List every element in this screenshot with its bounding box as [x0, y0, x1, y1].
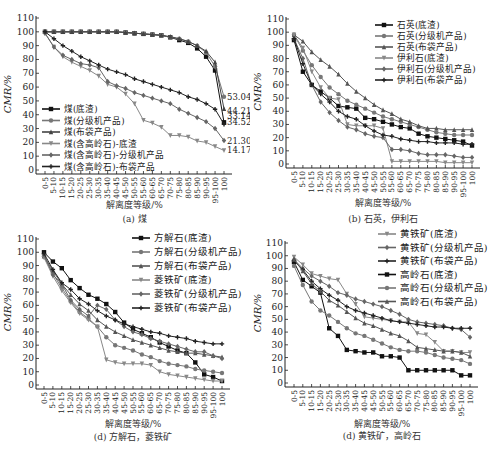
circle-marker-icon — [380, 341, 384, 345]
square-marker-icon — [382, 23, 386, 27]
x-tick-label: 85-90 — [439, 390, 448, 412]
square-marker-icon — [69, 278, 73, 282]
square-marker-icon — [385, 272, 389, 276]
y-tick-label: 40 — [272, 327, 284, 337]
y-tick-label: 50 — [23, 96, 35, 106]
x-tick-label: 40-45 — [111, 392, 120, 414]
x-tick-label: 40-45 — [360, 390, 369, 412]
y-tick-label: 100 — [17, 247, 34, 257]
circle-marker-icon — [318, 308, 322, 312]
x-tick-label: 65-70 — [405, 171, 414, 193]
triangle-marker-icon — [362, 321, 366, 326]
square-marker-icon — [450, 368, 454, 372]
legend-label: 黄铁矿(布袋产品) — [400, 255, 477, 266]
triangle-marker-icon — [363, 95, 367, 100]
x-tick-label: 50-55 — [129, 392, 138, 414]
square-marker-icon — [113, 310, 117, 314]
star-marker-icon — [186, 95, 190, 99]
circle-marker-icon — [327, 85, 331, 89]
square-marker-icon — [372, 117, 376, 121]
x-tick-label: 20-25 — [325, 390, 334, 412]
circle-marker-icon — [390, 117, 394, 121]
star-marker-icon — [425, 139, 429, 143]
chart-caption: (b) 石英，伊利石 — [348, 213, 418, 224]
x-tick-label: 90-95 — [450, 171, 459, 193]
y-tick-label: 60 — [23, 300, 35, 310]
x-axis-label: 解离度等级/% — [106, 199, 163, 210]
square-marker-icon — [399, 125, 403, 129]
star-marker-icon — [49, 164, 53, 168]
legend-item: 伊利石(底渣) — [375, 52, 449, 63]
x-tick-label: 95-100 — [457, 390, 466, 417]
square-marker-icon — [380, 354, 384, 358]
x-tick-label: 45-50 — [121, 177, 130, 199]
y-tick-label: 10 — [273, 146, 285, 156]
star-marker-icon — [150, 82, 154, 86]
x-tick-label: 65-70 — [155, 392, 164, 414]
square-marker-icon — [77, 286, 81, 290]
x-tick-label: 10-15 — [57, 392, 66, 414]
y-tick-label: 20 — [272, 353, 284, 363]
legend-label: 煤(含高岭石)-布袋产品 — [64, 161, 155, 172]
diamond-marker-icon — [389, 308, 393, 313]
circle-marker-icon — [372, 110, 376, 114]
square-marker-icon — [390, 122, 394, 126]
y-tick-label: 30 — [23, 340, 35, 350]
square-marker-icon — [86, 293, 90, 297]
star-marker-icon — [434, 141, 438, 145]
x-tick-label: 40-45 — [361, 171, 370, 193]
circle-marker-icon — [443, 131, 447, 135]
square-marker-icon — [353, 349, 357, 353]
x-tick-label: 85-90 — [441, 171, 450, 193]
triangle-marker-icon — [381, 107, 385, 112]
series-line — [43, 29, 226, 111]
series-line — [43, 30, 226, 99]
legend-label: 煤(分级机产品) — [64, 115, 125, 126]
y-axis-label: CMR/% — [2, 293, 13, 331]
legend-label: 方解石(分级机产品) — [154, 246, 241, 257]
chart-calcite-siderite: 01020304050607080901001100-55-1010-1515-… — [0, 228, 250, 457]
y-tick-label: 60 — [273, 80, 285, 90]
x-tick-label: 5-10 — [298, 171, 307, 188]
star-marker-icon — [184, 336, 188, 340]
y-tick-label: 80 — [23, 54, 35, 64]
x-tick-label: 80-85 — [432, 171, 441, 193]
x-tick-label: 70-75 — [166, 177, 175, 199]
circle-marker-icon — [441, 355, 445, 359]
triangle-marker-icon — [372, 102, 376, 107]
star-marker-icon — [166, 334, 170, 338]
legend-item: 石英(底渣) — [375, 19, 440, 30]
x-tick-label: 95-100 — [209, 392, 218, 419]
x-tick-label: 25-30 — [85, 177, 94, 199]
x-tick-label: 75-80 — [173, 392, 182, 414]
diamond-marker-icon — [168, 101, 172, 106]
legend-label: 煤(布袋产品) — [64, 126, 116, 137]
legend-item: 煤(布袋产品) — [42, 126, 116, 137]
x-tick-label: 60-65 — [146, 392, 155, 414]
square-marker-icon — [49, 107, 53, 111]
star-marker-icon — [211, 342, 215, 346]
legend-label: 石英(分级机产品) — [397, 30, 467, 41]
star-marker-icon — [415, 322, 419, 326]
star-marker-icon — [353, 308, 357, 312]
y-tick-label: 50 — [272, 314, 284, 324]
circle-marker-icon — [166, 362, 170, 366]
star-marker-icon — [141, 79, 145, 83]
circle-marker-icon — [381, 114, 385, 118]
star-marker-icon — [105, 67, 109, 71]
x-tick-label: 45-50 — [370, 171, 379, 193]
star-marker-icon — [433, 325, 437, 329]
x-tick-label: 55-60 — [137, 392, 146, 414]
diamond-marker-icon — [49, 152, 53, 157]
triangle-marker-icon — [104, 324, 108, 329]
star-marker-icon — [139, 306, 143, 310]
y-tick-label: 20 — [273, 133, 285, 143]
x-tick-label: 75-80 — [422, 390, 431, 412]
square-marker-icon — [408, 126, 412, 130]
x-tick-label: 5-10 — [49, 177, 58, 194]
diamond-marker-icon — [425, 152, 429, 157]
square-marker-icon — [363, 116, 367, 120]
star-marker-icon — [104, 314, 108, 318]
star-marker-icon — [193, 339, 197, 343]
star-marker-icon — [450, 326, 454, 330]
